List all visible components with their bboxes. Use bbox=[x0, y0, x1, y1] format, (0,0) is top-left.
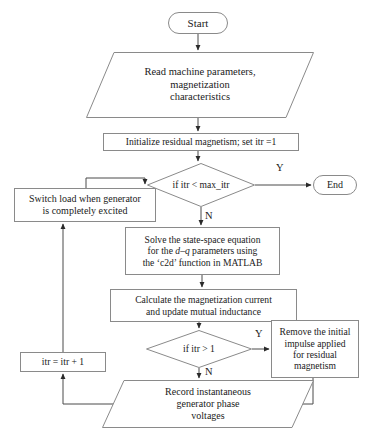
node-init_residual[interactable]: Initialize residual magnetism; set itr =… bbox=[103, 133, 299, 151]
node-label-check_max_itr: if itr < max_itr bbox=[147, 179, 255, 190]
node-start[interactable]: Start bbox=[168, 12, 228, 34]
flowchart-canvas: StartRead machine parameters, magnetizat… bbox=[0, 0, 372, 434]
node-label-solve_state_space: Solve the state-space equationfor the d–… bbox=[126, 234, 279, 268]
node-end[interactable]: End bbox=[313, 175, 357, 195]
node-label-end: End bbox=[314, 179, 356, 191]
node-label-start: Start bbox=[169, 17, 227, 30]
connector-switch-load-to-check bbox=[86, 178, 145, 188]
node-check_max_itr[interactable]: if itr < max_itr bbox=[147, 163, 255, 207]
node-label-record_voltages: Record instantaneous generator phase vol… bbox=[102, 386, 314, 421]
node-record_voltages[interactable]: Record instantaneous generator phase vol… bbox=[102, 380, 314, 428]
node-switch_load[interactable]: Switch load when generator is completely… bbox=[14, 188, 156, 222]
dq-parameter-symbol: d–q bbox=[175, 245, 189, 256]
node-label-init_residual: Initialize residual magnetism; set itr =… bbox=[104, 136, 298, 147]
node-calc_magnetization[interactable]: Calculate the magnetization current and … bbox=[110, 289, 297, 322]
node-label-check_itr_gt1: if itr > 1 bbox=[146, 343, 252, 354]
node-label-switch_load: Switch load when generator is completely… bbox=[15, 193, 155, 217]
node-label-increment_itr: itr = itr + 1 bbox=[21, 356, 105, 367]
node-solve_state_space[interactable]: Solve the state-space equationfor the d–… bbox=[125, 227, 280, 275]
node-check_itr_gt1[interactable]: if itr > 1 bbox=[146, 330, 252, 368]
node-label-read_params: Read machine parameters, magnetization c… bbox=[86, 66, 314, 103]
node-label-calc_magnetization: Calculate the magnetization current and … bbox=[111, 294, 296, 317]
edge-label-no-max-itr: N bbox=[205, 211, 213, 222]
edge-label-yes-itr-gt1: Y bbox=[255, 329, 263, 340]
edge-label-no-itr-gt1: N bbox=[205, 367, 213, 378]
node-label-remove_impulse: Remove the initial impulse applied for r… bbox=[272, 326, 358, 371]
node-remove_impulse[interactable]: Remove the initial impulse applied for r… bbox=[271, 320, 359, 378]
edge-label-yes-max-itr: Y bbox=[276, 163, 284, 174]
node-read_params[interactable]: Read machine parameters, magnetization c… bbox=[86, 52, 314, 118]
node-increment_itr[interactable]: itr = itr + 1 bbox=[20, 352, 106, 372]
